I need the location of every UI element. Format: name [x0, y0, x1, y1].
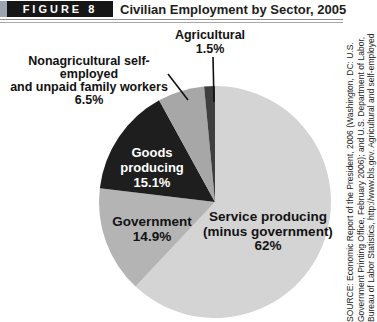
label-nonagricultural-name-line1: Nonagricultural self-employed — [2, 55, 176, 81]
label-agricultural-name: Agricultural — [158, 28, 262, 42]
label-nonagricultural-value: 6.5% — [2, 94, 176, 107]
leader-line-agricultural — [213, 57, 214, 102]
source-note-line2: Government Printing Office, February 200… — [356, 2, 367, 322]
figure-8-chart-panel: FIGURE 8 Civilian Employment by Sector, … — [0, 0, 377, 322]
source-note-line3: Bureau of Labor Statistics, http://www.b… — [366, 2, 377, 322]
source-note: SOURCE: Economic Report of the President… — [345, 2, 377, 322]
label-service-name-line1: Service producing — [192, 210, 344, 225]
label-agricultural-value: 1.5% — [158, 42, 262, 56]
label-goods-value: 15.1% — [102, 175, 202, 190]
label-goods-name-line2: producing — [102, 160, 202, 175]
label-goods-producing: Goods producing 15.1% — [102, 145, 202, 190]
label-service-value: 62% — [192, 239, 344, 254]
pie-slices-group — [99, 86, 331, 318]
label-service-producing: Service producing (minus government) 62% — [192, 210, 344, 254]
label-service-name-line2: (minus government) — [192, 225, 344, 240]
source-note-line1: SOURCE: Economic Report of the President… — [345, 2, 356, 322]
label-goods-name-line1: Goods — [102, 145, 202, 160]
label-agricultural: Agricultural 1.5% — [158, 28, 262, 56]
label-nonagricultural: Nonagricultural self-employed and unpaid… — [2, 55, 176, 107]
